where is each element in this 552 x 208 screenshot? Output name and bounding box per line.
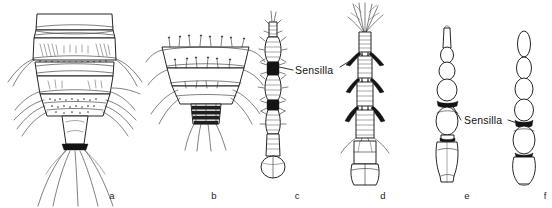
panel-letter-d: d (380, 190, 385, 201)
figure-plate: Sensilla Sensilla a b c d e f (0, 0, 552, 208)
panel-letter-b: b (211, 190, 216, 201)
panel-letter-f: f (544, 190, 547, 201)
panel-f-drawing (513, 31, 536, 186)
panel-letter-c: c (295, 190, 300, 201)
panel-letter-a: a (109, 190, 115, 201)
panel-c-drawing (258, 11, 288, 178)
panel-a-drawing (8, 14, 142, 206)
panel-e-drawing (436, 26, 458, 182)
leader-line-sensilla-c (279, 67, 293, 70)
callout-sensilla-ef: Sensilla (452, 105, 517, 126)
figure-drawing: Sensilla Sensilla a b c d e f (0, 0, 552, 208)
panel-b-drawing (146, 35, 265, 151)
sensilla-label-ef: Sensilla (464, 114, 502, 126)
panel-d-drawing (341, 3, 389, 185)
callout-sensilla-cd: Sensilla (279, 56, 358, 76)
panel-letter-e: e (464, 190, 469, 201)
sensilla-label-cd: Sensilla (295, 64, 333, 76)
